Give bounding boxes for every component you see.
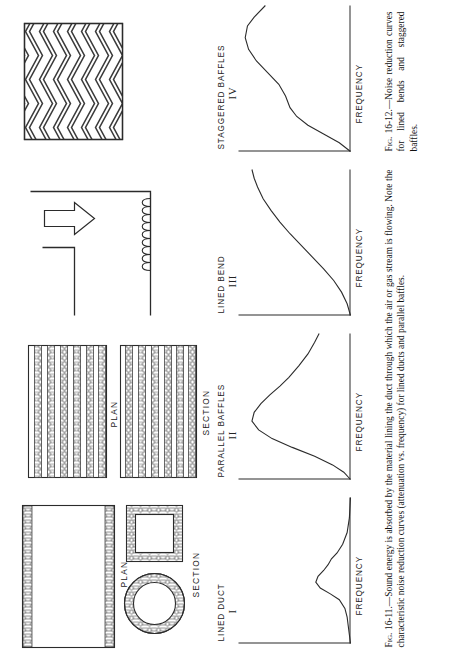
chart-III-title: LINED BEND [216,255,225,313]
diagram-lined-bend [22,159,192,319]
chart-I-numeral: I [225,609,237,613]
chart-II-title: PARALLEL BAFFLES [216,383,225,477]
flow-direction-arrow [44,202,94,234]
chart-III-curve [238,169,350,315]
diagram-staggered-baffles [22,21,124,141]
parallel-baffles-section [120,345,196,477]
figure-caption-16-12: Fig. 16-12.—Noise reduction curves for l… [382,11,419,151]
lined-duct-section-round [124,573,184,633]
chart-lined-duct: FREQUENCY LINED DUCT I [238,497,350,643]
figure-number-16-12: Fig. 16-12. [383,109,393,151]
chart-II-curve [238,333,350,479]
scanned-page: PLAN SECTION [0,0,455,661]
diagram-label-plan-1: PLAN [118,560,128,587]
chart-I-curve [238,497,350,643]
lined-duct-plan [22,505,114,647]
chart-II-numeral: II [225,431,237,439]
chart-lined-bend: FREQUENCY LINED BEND III [238,169,350,315]
chart-IV-numeral: IV [225,86,237,99]
chart-II-x-axis-title: FREQUENCY [354,391,363,451]
chart-parallel-baffles: FREQUENCY PARALLEL BAFFLES II [238,333,350,479]
figure-caption-16-11: Fig. 16-11.—Sound energy is absorbed by … [382,169,407,647]
diagram-lined-duct: PLAN SECTION [14,499,200,649]
chart-staggered-baffles: FREQUENCY STAGGERED BAFFLES IV [238,5,350,151]
scanned-page-rotator: PLAN SECTION [0,0,455,661]
chart-III-numeral: III [225,275,237,288]
lined-duct-drawing [14,499,200,649]
figure-number-16-11: Fig. 16-11. [383,606,393,647]
staggered-baffles-drawing [22,21,124,141]
chart-I-x-axis-title: FREQUENCY [354,555,363,615]
diagram-label-section-1: SECTION [190,551,200,597]
diagram-label-plan-2: PLAN [108,400,118,427]
chart-IV-x-axis-title: FREQUENCY [354,63,363,123]
chart-IV-title: STAGGERED BAFFLES [216,44,225,149]
lined-duct-section-square [126,505,182,561]
chart-IV-curve [238,5,350,151]
figure-caption-text-16-11: —Sound energy is absorbed by the materia… [383,169,405,647]
lined-bend-drawing [22,159,192,319]
chart-I-title: LINED DUCT [216,583,225,641]
diagram-label-section-2: SECTION [200,389,210,435]
chart-III-x-axis-title: FREQUENCY [354,227,363,287]
parallel-baffles-plan [28,345,106,477]
lined-bend-lining [142,192,150,270]
diagram-parallel-baffles: PLAN SECTION [24,339,200,479]
